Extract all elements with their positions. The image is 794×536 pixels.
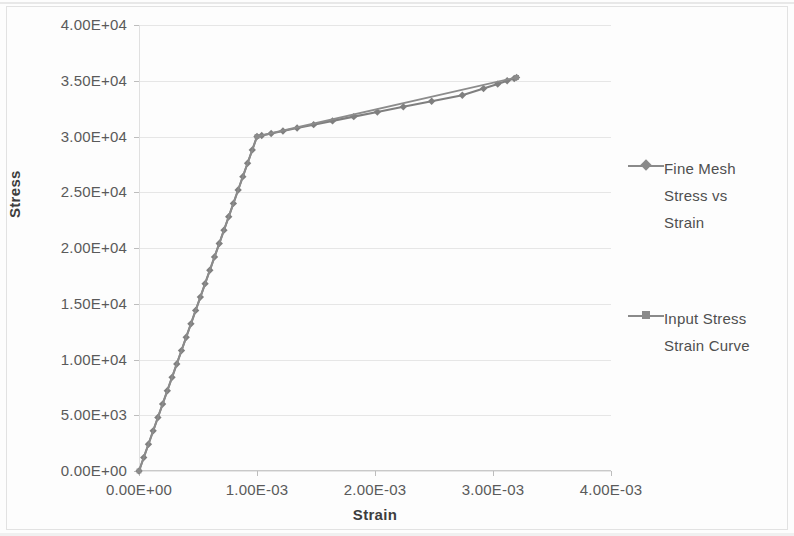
data-point-marker xyxy=(428,98,435,105)
y-tick-label: 2.00E+04 xyxy=(17,239,127,256)
x-tick-label: 4.00E-03 xyxy=(551,481,671,498)
y-tick-label: 1.00E+04 xyxy=(17,351,127,368)
diamond-marker-icon xyxy=(628,157,664,174)
x-tick-mark xyxy=(493,471,494,476)
y-tick-label: 4.00E+04 xyxy=(17,16,127,33)
series-fine-mesh xyxy=(135,74,520,475)
series-plot xyxy=(139,25,611,471)
legend-label: Fine Mesh Stress vs Strain xyxy=(664,155,736,236)
x-axis-title: Strain xyxy=(139,506,611,523)
y-tick-label: 2.50E+04 xyxy=(17,183,127,200)
scan-top-edge xyxy=(0,2,794,4)
plot-area xyxy=(139,25,611,471)
x-tick-label: 0.00E+00 xyxy=(79,481,199,498)
x-tick-label: 2.00E-03 xyxy=(315,481,435,498)
legend-key-marker xyxy=(642,311,650,319)
data-point-marker xyxy=(255,134,260,139)
series-input-curve xyxy=(137,75,519,473)
square-marker-icon xyxy=(628,307,664,324)
y-tick-label: 5.00E+03 xyxy=(17,406,127,423)
y-tick-label: 3.00E+04 xyxy=(17,128,127,145)
x-tick-mark xyxy=(257,471,258,476)
legend-entry[interactable]: Input Stress Strain Curve xyxy=(628,305,750,359)
legend-entry[interactable]: Fine Mesh Stress vs Strain xyxy=(628,155,736,236)
y-tick-label: 3.50E+04 xyxy=(17,72,127,89)
y-tick-label: 0.00E+00 xyxy=(17,462,127,479)
y-tick-label: 1.50E+04 xyxy=(17,295,127,312)
x-tick-label: 1.00E-03 xyxy=(197,481,317,498)
x-tick-mark xyxy=(611,471,612,476)
data-point-marker xyxy=(514,75,519,80)
data-point-marker xyxy=(137,469,142,474)
legend-key-marker xyxy=(640,159,651,170)
x-tick-label: 3.00E-03 xyxy=(433,481,553,498)
series-line xyxy=(139,77,517,471)
data-point-marker xyxy=(459,92,466,99)
legend-label: Input Stress Strain Curve xyxy=(664,305,750,359)
x-tick-mark xyxy=(375,471,376,476)
stress-strain-chart: Stress 0.00E+005.00E+031.00E+041.50E+042… xyxy=(0,0,794,536)
series-line xyxy=(139,77,517,471)
